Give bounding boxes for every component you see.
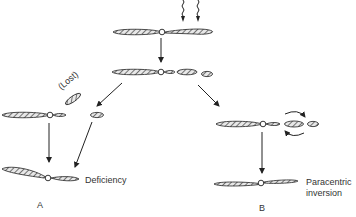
chromosome-broken [112,69,213,76]
label-panel-b: B [259,203,265,213]
label-deficiency: Deficiency [85,175,127,185]
label-paracentric: Paracentric [306,177,352,187]
centromere-icon [47,112,53,118]
centromere-icon [159,29,165,35]
chromosome-inversion [214,180,298,186]
chromosome-b-broken [216,121,319,127]
label-panel-a: A [37,200,43,210]
lost-fragment [64,92,82,107]
chromosome-a-broken [2,112,104,118]
centromere-icon [258,180,264,186]
arrow-to-a [97,83,122,106]
chromosome-deficiency [2,167,79,181]
centromere-icon [158,69,164,75]
label-inversion: inversion [306,188,342,198]
chromosome-intact [113,29,213,35]
radiation-arrows [181,0,200,22]
rotate-arrow-top [285,112,305,117]
arrow-to-b [198,85,219,106]
arrow-rejoin-a [75,122,92,167]
rotate-arrow-bottom [285,131,304,136]
diagram-canvas [0,0,356,217]
